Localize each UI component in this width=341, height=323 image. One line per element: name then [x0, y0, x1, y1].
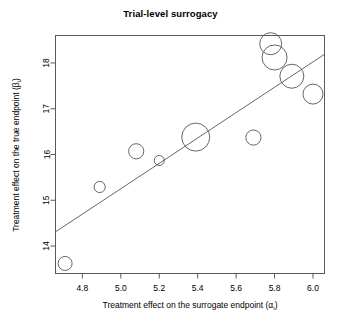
x-tick-label: 6.0 [307, 283, 319, 293]
y-tick-label: 17 [42, 104, 52, 114]
x-tick-label: 5.0 [115, 283, 127, 293]
data-point-bubble [129, 144, 144, 159]
data-point-bubble [154, 155, 164, 165]
x-tick-label: 5.2 [153, 283, 165, 293]
data-point-bubble [182, 123, 210, 151]
data-point-bubble [262, 45, 287, 70]
y-tick-label: 18 [42, 58, 52, 68]
data-points [58, 33, 323, 271]
y-axis-title: Treatment effect on the true endpoint (β… [11, 78, 22, 232]
x-tick-label: 5.6 [230, 283, 242, 293]
data-point-bubble [303, 84, 323, 104]
data-point-bubble [260, 33, 282, 55]
plot-frame [56, 36, 325, 274]
x-tick-label: 4.8 [76, 283, 88, 293]
y-axis-ticks: 1415161718 [42, 58, 56, 251]
y-tick-label: 15 [42, 195, 52, 205]
y-tick-label: 14 [42, 241, 52, 251]
data-point-bubble [94, 181, 105, 192]
chart-container: Trial-level surrogacy 4.85.05.25.45.65.8… [0, 0, 341, 323]
y-tick-label: 16 [42, 150, 52, 160]
x-axis-ticks: 4.85.05.25.45.65.86.0 [76, 274, 319, 293]
data-point-bubble [58, 256, 72, 270]
regression-line [56, 54, 325, 232]
x-tick-label: 5.4 [192, 283, 204, 293]
scatter-plot: 4.85.05.25.45.65.86.0 1415161718 Treatme… [0, 0, 341, 323]
x-tick-label: 5.8 [269, 283, 281, 293]
x-axis-title: Treatment effect on the surrogate endpoi… [103, 300, 278, 311]
data-point-bubble [246, 130, 261, 145]
